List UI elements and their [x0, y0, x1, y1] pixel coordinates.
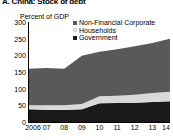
x-axis-tick-label: 13	[148, 124, 156, 131]
x-axis-tick-label: 11	[113, 124, 120, 131]
y-axis-title: Percent of GDP	[20, 13, 69, 20]
y-axis-tick-label: 200	[14, 52, 26, 59]
plot-area	[29, 22, 170, 122]
y-axis-tick-label: 250	[14, 35, 26, 42]
y-axis-tick-label: 100	[14, 85, 26, 92]
y-axis-line	[28, 22, 29, 123]
x-axis-tick-label: 09	[78, 124, 86, 131]
chart-figure: A. China: Stock of debt Percent of GDP N…	[0, 0, 173, 140]
x-axis-tick-label: 07	[43, 124, 51, 131]
x-axis-tick-labels: 20060708091011121314	[29, 124, 170, 136]
page-title: A. China: Stock of debt	[2, 0, 85, 6]
y-axis-tick-label: 150	[14, 69, 26, 76]
x-axis-tick-label: 2006	[25, 124, 41, 131]
y-axis-tick-label: 300	[14, 19, 26, 26]
stacked-area-series	[29, 22, 170, 122]
x-axis-tick-label: 14	[162, 124, 170, 131]
x-axis-tick-label: 12	[131, 124, 139, 131]
x-axis-line	[28, 122, 170, 123]
x-axis-tick-label: 10	[96, 124, 104, 131]
x-axis-tick-label: 08	[60, 124, 68, 131]
y-axis-tick-label: 50	[18, 102, 26, 109]
y-axis-tick-labels: 050100150200250300	[0, 22, 26, 122]
